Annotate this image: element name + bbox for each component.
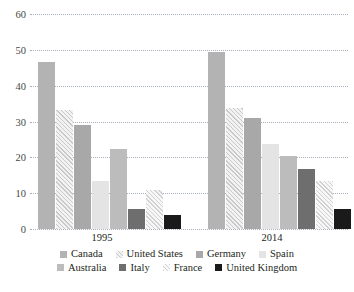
- bar-group-2014: [208, 14, 354, 229]
- legend-label-italy: Italy: [130, 263, 149, 274]
- legend-label-united-states: United States: [127, 249, 183, 260]
- bar-1995-australia[interactable]: [110, 149, 127, 229]
- legend-swatch-italy-icon: [119, 264, 126, 271]
- legend-item-united-states[interactable]: United States: [116, 249, 183, 260]
- bar-1995-united-states[interactable]: [56, 110, 73, 229]
- y-tick-40: 40: [16, 81, 27, 92]
- y-tick-0: 0: [21, 225, 26, 236]
- legend-label-united-kingdom: United Kingdom: [226, 263, 297, 274]
- chart-legend: Canada United States Germany Spain Austr…: [0, 249, 354, 273]
- legend-label-france: France: [174, 263, 203, 274]
- x-category-label-1995: 1995: [72, 233, 132, 244]
- bar-2014-united-kingdom[interactable]: [334, 209, 351, 229]
- bar-1995-united-kingdom[interactable]: [164, 215, 181, 229]
- legend-swatch-france-icon: [163, 264, 170, 271]
- bar-group-1995: [38, 14, 188, 229]
- bar-2014-spain[interactable]: [262, 144, 279, 229]
- gridline-0: 0: [30, 229, 348, 230]
- y-tick-30: 30: [16, 117, 27, 128]
- bar-2014-germany[interactable]: [244, 118, 261, 229]
- y-tick-20: 20: [16, 153, 27, 164]
- legend-swatch-united-kingdom-icon: [215, 264, 222, 271]
- y-tick-50: 50: [16, 46, 27, 57]
- bar-1995-italy[interactable]: [128, 209, 145, 229]
- bar-1995-france[interactable]: [146, 190, 163, 229]
- bar-2014-france[interactable]: [316, 181, 333, 229]
- legend-swatch-canada-icon: [60, 251, 67, 258]
- bar-1995-spain[interactable]: [92, 181, 109, 229]
- bar-2014-united-states[interactable]: [226, 108, 243, 229]
- legend-row-1: Canada United States Germany Spain: [60, 249, 294, 260]
- legend-item-italy[interactable]: Italy: [119, 263, 149, 274]
- legend-row-2: Australia Italy France United Kingdom: [57, 263, 297, 274]
- bar-chart: 60 50 40 30 20 10 0: [0, 0, 354, 292]
- bar-2014-italy[interactable]: [298, 169, 315, 229]
- legend-label-australia: Australia: [68, 263, 107, 274]
- bar-2014-canada[interactable]: [208, 52, 225, 229]
- legend-item-canada[interactable]: Canada: [60, 249, 103, 260]
- plot-area: 60 50 40 30 20 10 0: [30, 14, 348, 229]
- legend-label-germany: Germany: [207, 249, 246, 260]
- y-tick-10: 10: [16, 189, 27, 200]
- legend-swatch-spain-icon: [259, 251, 266, 258]
- legend-item-australia[interactable]: Australia: [57, 263, 107, 274]
- legend-label-spain: Spain: [270, 249, 294, 260]
- bar-1995-canada[interactable]: [38, 62, 55, 229]
- x-category-label-2014: 2014: [242, 233, 302, 244]
- y-tick-60: 60: [16, 10, 27, 21]
- legend-label-canada: Canada: [71, 249, 103, 260]
- legend-swatch-germany-icon: [196, 251, 203, 258]
- legend-item-germany[interactable]: Germany: [196, 249, 246, 260]
- legend-item-spain[interactable]: Spain: [259, 249, 294, 260]
- bar-2014-australia[interactable]: [280, 156, 297, 229]
- bar-1995-germany[interactable]: [74, 125, 91, 229]
- legend-item-united-kingdom[interactable]: United Kingdom: [215, 263, 297, 274]
- legend-item-france[interactable]: France: [163, 263, 203, 274]
- legend-swatch-united-states-icon: [116, 251, 123, 258]
- legend-swatch-australia-icon: [57, 264, 64, 271]
